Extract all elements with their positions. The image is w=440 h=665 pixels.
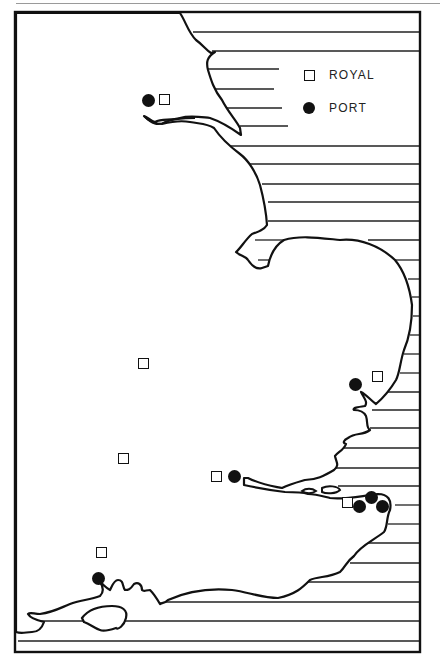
isle-of-wight — [82, 606, 126, 631]
port-marker — [228, 470, 241, 483]
estuary-island-2 — [322, 486, 340, 493]
royal-marker — [372, 371, 383, 382]
estuary-island-1 — [302, 489, 316, 494]
port-marker — [376, 500, 389, 513]
port-marker — [365, 491, 378, 504]
legend-label: ROYAL — [329, 68, 375, 82]
royal-marker — [211, 471, 222, 482]
port-marker — [349, 378, 362, 391]
legend-item-royal: ROYAL — [302, 65, 375, 85]
legend-item-port: PORT — [302, 98, 375, 118]
royal-marker — [342, 497, 353, 508]
royal-marker — [96, 547, 107, 558]
legend: ROYAL PORT — [302, 65, 375, 131]
legend-label: PORT — [329, 101, 367, 115]
hollow-square-icon — [302, 68, 316, 82]
port-marker — [92, 572, 105, 585]
filled-circle-icon — [302, 101, 316, 115]
royal-marker — [138, 358, 149, 369]
royal-marker — [118, 453, 129, 464]
royal-marker — [159, 94, 170, 105]
port-marker — [353, 500, 366, 513]
port-marker — [142, 94, 155, 107]
